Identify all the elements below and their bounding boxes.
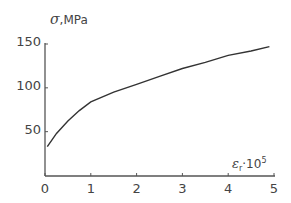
y-tick-label: 150: [16, 34, 41, 49]
x-tick-label: 5: [270, 181, 278, 196]
x-axis-label: εr·105: [232, 156, 266, 173]
y-axis-label: σ,MPa: [50, 11, 88, 27]
chart: 50100150 012345 σ,MPa εr·105: [0, 0, 291, 203]
y-ticks: 50100150: [16, 34, 48, 137]
data-line: [47, 47, 269, 147]
x-tick-label: 3: [178, 181, 186, 196]
x-tick-label: 1: [87, 181, 95, 196]
axes: [45, 43, 275, 176]
x-tick-label: 0: [41, 181, 49, 196]
x-tick-label: 2: [132, 181, 140, 196]
x-tick-label: 4: [224, 181, 232, 196]
y-tick-label: 50: [24, 122, 41, 137]
y-tick-label: 100: [16, 78, 41, 93]
